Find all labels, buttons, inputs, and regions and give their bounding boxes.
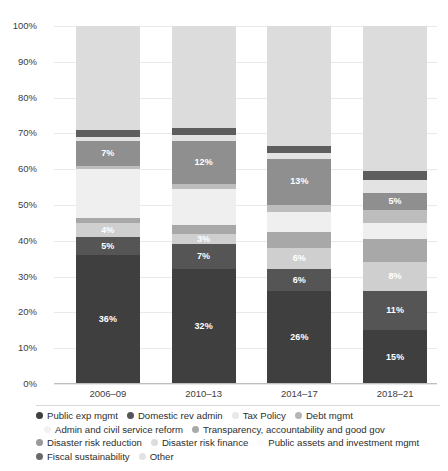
gridline	[54, 384, 437, 385]
segment-value-label: 6%	[293, 276, 306, 285]
bar-segment[interactable]	[172, 225, 236, 234]
bar-group[interactable]: 32%7%3%12%	[172, 26, 236, 384]
segment-value-label: 7%	[101, 149, 114, 158]
bar-segment[interactable]: 12%	[172, 141, 236, 184]
segment-value-label: 3%	[197, 235, 210, 244]
stacked-bar[interactable]: 26%6%6%13%	[267, 26, 331, 384]
bar-series-container: 36%5%4%7%32%7%3%12%26%6%6%13%15%11%8%5%	[54, 26, 437, 384]
y-axis-tick-label: 90%	[0, 56, 37, 67]
legend-label: Disaster risk reduction	[47, 436, 142, 450]
bar-segment[interactable]	[172, 128, 236, 135]
x-axis-tick-labels: 2006–092010–132014–172018–21	[54, 388, 437, 404]
segment-value-label: 32%	[194, 322, 212, 331]
x-axis-tick-label: 2018–21	[363, 388, 427, 399]
legend-row: Disaster risk reductionDisaster risk fin…	[36, 436, 440, 450]
bar-segment[interactable]	[76, 166, 140, 170]
bar-segment[interactable]	[267, 232, 331, 248]
bar-segment[interactable]	[363, 223, 427, 239]
bar-segment[interactable]: 36%	[76, 255, 140, 384]
legend-row: Fiscal sustainabilityOther	[36, 450, 440, 464]
bar-segment[interactable]: 8%	[363, 262, 427, 291]
bar-segment[interactable]	[76, 218, 140, 223]
legend-swatch-icon	[192, 426, 199, 433]
segment-value-label: 11%	[386, 306, 404, 315]
bar-segment[interactable]	[267, 205, 331, 212]
stacked-bar[interactable]: 32%7%3%12%	[172, 26, 236, 384]
legend-item[interactable]: Admin and civil service reform	[44, 423, 183, 437]
bar-segment[interactable]	[363, 239, 427, 262]
bar-segment[interactable]: 6%	[267, 248, 331, 269]
bar-segment[interactable]	[76, 26, 140, 130]
y-axis-tick-label: 80%	[0, 92, 37, 103]
bar-segment[interactable]: 11%	[363, 291, 427, 330]
y-axis-tick-label: 100%	[0, 20, 37, 31]
bar-segment[interactable]	[76, 137, 140, 141]
y-axis-tick-label: 60%	[0, 163, 37, 174]
bar-segment[interactable]	[267, 26, 331, 146]
bar-segment[interactable]: 7%	[76, 141, 140, 166]
bar-segment[interactable]	[267, 153, 331, 158]
legend-item[interactable]: Tax Policy	[232, 409, 286, 423]
bar-segment[interactable]	[363, 210, 427, 223]
legend-label: Fiscal sustainability	[47, 450, 130, 464]
legend-label: Public assets and investment mgmt	[268, 436, 419, 450]
legend-item[interactable]: Domestic rev admin	[127, 409, 223, 423]
bar-segment[interactable]: 7%	[172, 244, 236, 269]
legend-swatch-icon	[44, 426, 51, 433]
segment-value-label: 6%	[293, 254, 306, 263]
segment-value-label: 12%	[194, 158, 212, 167]
bar-segment[interactable]: 13%	[267, 159, 331, 206]
legend-label: Other	[150, 450, 174, 464]
legend-label: Debt mgmt	[306, 409, 353, 423]
legend-label: Disaster risk finance	[162, 436, 248, 450]
y-axis-tick-label: 20%	[0, 306, 37, 317]
segment-value-label: 8%	[389, 272, 402, 281]
bar-segment[interactable]	[76, 169, 140, 217]
legend-swatch-icon	[139, 453, 146, 460]
segment-value-label: 5%	[389, 197, 402, 206]
legend-row: Admin and civil service reformTransparen…	[36, 423, 440, 437]
legend-item[interactable]: Public assets and investment mgmt	[257, 436, 419, 450]
bar-group[interactable]: 36%5%4%7%	[76, 26, 140, 384]
y-axis-tick-label: 0%	[0, 378, 37, 389]
bar-segment[interactable]	[172, 26, 236, 128]
legend-item[interactable]: Fiscal sustainability	[36, 450, 130, 464]
stacked-bar[interactable]: 15%11%8%5%	[363, 26, 427, 384]
bar-segment[interactable]: 26%	[267, 291, 331, 384]
bar-segment[interactable]: 5%	[76, 237, 140, 255]
bar-segment[interactable]	[172, 184, 236, 189]
bar-segment[interactable]	[267, 146, 331, 153]
y-axis-tick-label: 70%	[0, 127, 37, 138]
bar-segment[interactable]	[363, 171, 427, 180]
legend-label: Transparency, accountability and good go…	[203, 423, 385, 437]
legend-item[interactable]: Disaster risk reduction	[36, 436, 142, 450]
bar-segment[interactable]	[172, 135, 236, 140]
segment-value-label: 26%	[290, 333, 308, 342]
bar-segment[interactable]	[172, 189, 236, 225]
x-axis-tick-label: 2006–09	[76, 388, 140, 399]
bar-segment[interactable]: 6%	[267, 269, 331, 290]
y-axis-tick-label: 10%	[0, 342, 37, 353]
bar-segment[interactable]	[363, 180, 427, 193]
legend-swatch-icon	[232, 412, 239, 419]
bar-segment[interactable]	[76, 130, 140, 137]
x-axis-tick-label: 2010–13	[172, 388, 236, 399]
stacked-bar[interactable]: 36%5%4%7%	[76, 26, 140, 384]
legend-item[interactable]: Transparency, accountability and good go…	[192, 423, 385, 437]
bar-segment[interactable]: 4%	[76, 223, 140, 237]
bar-group[interactable]: 15%11%8%5%	[363, 26, 427, 384]
plot-area: 0%10%20%30%40%50%60%70%80%90%100% 36%5%4…	[54, 26, 437, 384]
legend-item[interactable]: Debt mgmt	[295, 409, 353, 423]
bar-segment[interactable]: 3%	[172, 234, 236, 245]
legend-swatch-icon	[36, 412, 43, 419]
legend-item[interactable]: Public exp mgmt	[36, 409, 118, 423]
bar-segment[interactable]: 32%	[172, 269, 236, 384]
legend-item[interactable]: Other	[139, 450, 174, 464]
bar-group[interactable]: 26%6%6%13%	[267, 26, 331, 384]
bar-segment[interactable]	[363, 26, 427, 171]
bar-segment[interactable]: 5%	[363, 193, 427, 211]
legend-item[interactable]: Disaster risk finance	[151, 436, 248, 450]
bar-segment[interactable]: 15%	[363, 330, 427, 384]
legend-label: Admin and civil service reform	[55, 423, 183, 437]
bar-segment[interactable]	[267, 212, 331, 232]
